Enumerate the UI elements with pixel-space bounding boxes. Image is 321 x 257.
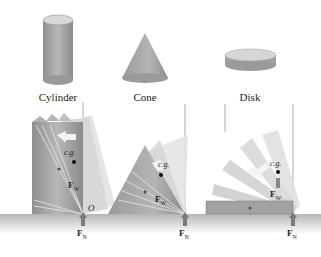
weight-force-label: FW <box>68 180 79 192</box>
weight-force-label: FW <box>270 189 281 201</box>
ground-surface <box>0 214 321 234</box>
tipping-disk <box>206 130 300 226</box>
normal-force-label: FN <box>179 228 189 240</box>
weight-arrow-icon <box>72 165 76 178</box>
weight-arrow-icon <box>276 178 280 188</box>
cylinder-label: Cylinder <box>28 91 88 103</box>
tipping-cylinder <box>32 113 115 226</box>
disk-label: Disk <box>230 91 270 103</box>
cg-label: c.g. <box>158 160 170 169</box>
diagram-canvas <box>0 0 321 257</box>
weight-force-label: FW <box>155 194 166 206</box>
pivot-label: O <box>88 203 95 213</box>
cylinder-icon <box>43 15 73 85</box>
tipping-cone <box>108 135 189 226</box>
cone-label: Cone <box>125 91 165 103</box>
normal-force-label: FN <box>287 228 297 240</box>
cone-icon <box>122 33 168 83</box>
cg-label: c.g. <box>270 159 282 168</box>
disk-icon <box>225 49 276 71</box>
normal-force-label: FN <box>77 228 87 240</box>
cg-label: c.g. <box>64 148 76 157</box>
